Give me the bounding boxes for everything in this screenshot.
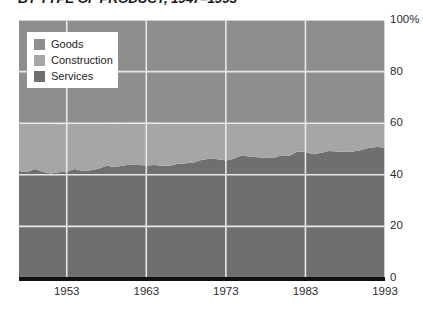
x-axis-tick-1993: 1993 — [372, 286, 398, 298]
axis-baseline — [19, 277, 385, 281]
x-axis-tick-1953: 1953 — [54, 286, 80, 298]
x-axis-tick-1963: 1963 — [134, 286, 160, 298]
chart-legend: Goods Construction Services — [27, 32, 118, 88]
legend-item-goods: Goods — [34, 37, 112, 51]
legend-item-services: Services — [34, 69, 112, 83]
legend-label-services: Services — [51, 71, 93, 82]
y-axis-tick-100: 100% — [390, 14, 419, 26]
y-axis-tick-20: 20 — [390, 220, 403, 232]
legend-swatch-services — [34, 71, 45, 82]
legend-swatch-construction — [34, 55, 45, 66]
legend-item-construction: Construction — [34, 53, 112, 67]
legend-swatch-goods — [34, 39, 45, 50]
y-axis-tick-60: 60 — [390, 117, 403, 129]
y-axis-tick-80: 80 — [390, 66, 403, 78]
page-title: BY TYPE OF PRODUCT, 1947–1993 — [18, 0, 237, 6]
x-axis-tick-1973: 1973 — [213, 286, 239, 298]
legend-label-goods: Goods — [51, 39, 83, 50]
legend-label-construction: Construction — [51, 55, 113, 66]
y-axis-tick-40: 40 — [390, 169, 403, 181]
x-axis-tick-1983: 1983 — [293, 286, 319, 298]
y-axis-tick-0: 0 — [390, 272, 396, 284]
